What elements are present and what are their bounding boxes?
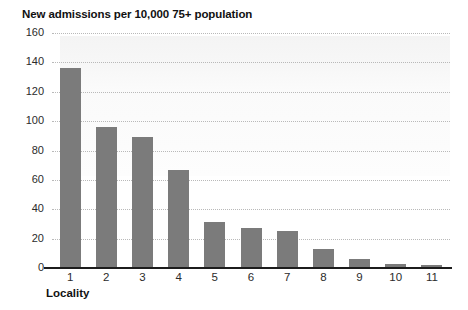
chart-title: New admissions per 10,000 75+ population (22, 8, 252, 20)
bar (132, 137, 153, 268)
y-axis-tick-labels: 160140120100806040200 (0, 33, 44, 268)
y-axis-tick-label: 100 (4, 114, 44, 126)
x-axis-tick-label: 3 (124, 271, 160, 283)
bar (168, 170, 189, 268)
x-axis-tick-label: 5 (197, 271, 233, 283)
bar (313, 249, 334, 268)
x-axis-tick-label: 1 (52, 271, 88, 283)
x-axis-tick-label: 10 (378, 271, 414, 283)
y-axis-tick-label: 60 (4, 173, 44, 185)
x-axis-tick-label: 9 (342, 271, 378, 283)
x-axis-tick-label: 4 (161, 271, 197, 283)
bar (60, 68, 81, 268)
bar (241, 228, 262, 268)
y-axis-tick-label: 0 (4, 261, 44, 273)
x-axis-tick-label: 8 (305, 271, 341, 283)
bar (204, 222, 225, 268)
x-axis-tick-label: 2 (88, 271, 124, 283)
x-axis-tick-label: 7 (269, 271, 305, 283)
bar (277, 231, 298, 268)
y-axis-tick-label: 160 (4, 26, 44, 38)
x-axis-tick-labels: 1234567891011 (52, 271, 450, 289)
bar (96, 127, 117, 268)
x-axis-tick-label: 11 (414, 271, 450, 283)
x-axis-title: Locality (46, 287, 89, 299)
y-axis-tick-label: 120 (4, 85, 44, 97)
bar-chart-figure: New admissions per 10,000 75+ population… (0, 0, 468, 310)
y-axis-tick-label: 80 (4, 144, 44, 156)
bars-layer (52, 33, 450, 268)
y-axis-tick-label: 40 (4, 202, 44, 214)
x-axis-tick-label: 6 (233, 271, 269, 283)
x-axis-line (44, 267, 452, 269)
y-axis-tick-label: 20 (4, 232, 44, 244)
y-axis-tick-label: 140 (4, 55, 44, 67)
